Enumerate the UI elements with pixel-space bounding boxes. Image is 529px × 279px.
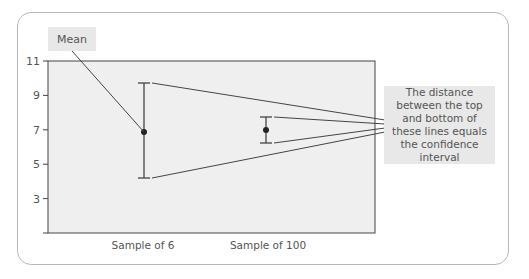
confidence-interval-callout: The distance between the top and bottom … — [384, 86, 495, 164]
y-axis — [43, 61, 48, 233]
x-category-sample-6: Sample of 6 — [112, 239, 175, 251]
mean-callout-text: Mean — [57, 33, 87, 46]
x-category-sample-100: Sample of 100 — [230, 239, 306, 251]
confidence-interval-callout-text: The distance between the top and bottom … — [386, 86, 493, 164]
y-tick-3: 3 — [33, 193, 40, 206]
mean-point-sample-100 — [263, 127, 269, 133]
y-tick-9: 9 — [33, 89, 40, 102]
plot-area — [48, 61, 375, 233]
y-tick-11: 11 — [26, 55, 40, 68]
y-tick-7: 7 — [33, 124, 40, 137]
y-tick-5: 5 — [33, 158, 40, 171]
mean-callout: Mean — [48, 27, 96, 51]
